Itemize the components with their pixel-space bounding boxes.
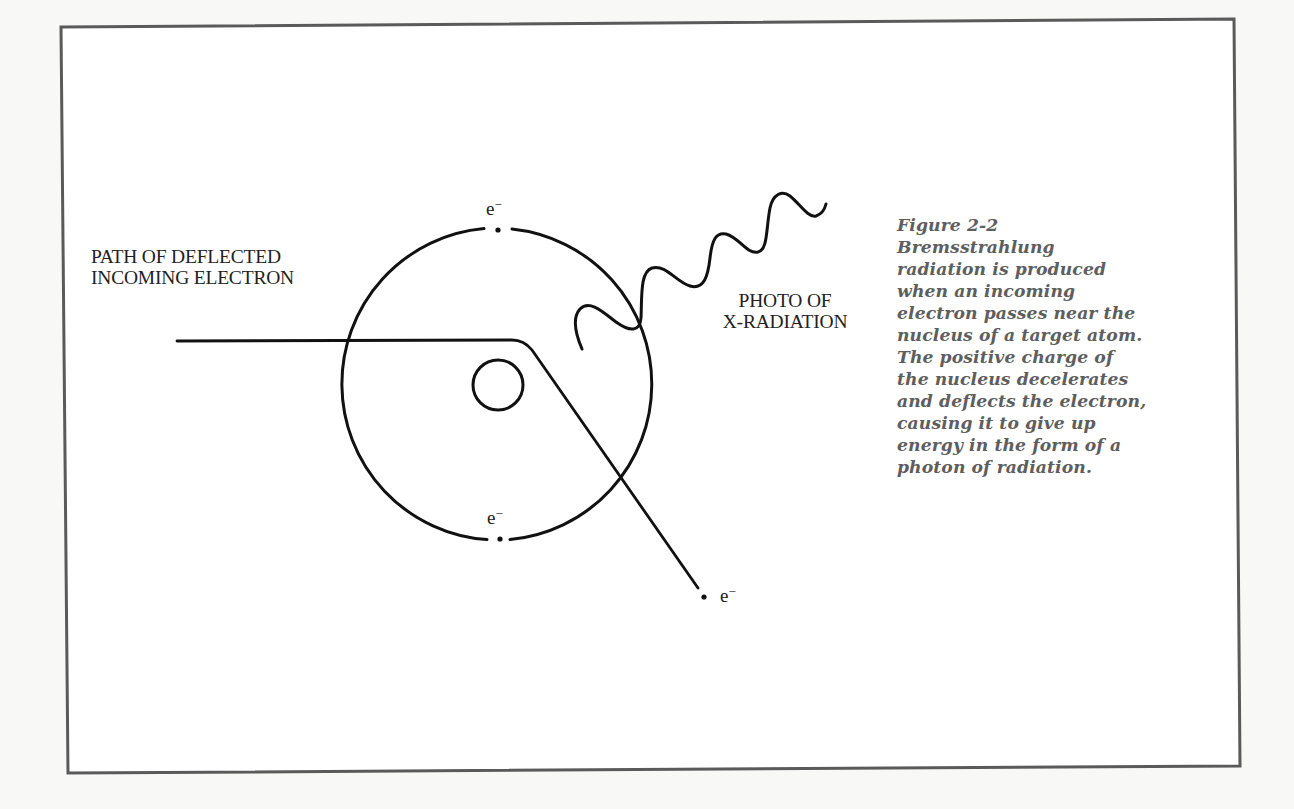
caption-line: and deflects the electron,	[897, 390, 1146, 412]
figure-caption: Figure 2-2 Bremsstrahlung radiation is p…	[897, 214, 1146, 478]
caption-line: energy in the form of a	[897, 434, 1146, 456]
caption-line: radiation is produced	[897, 258, 1146, 280]
orbit-electron-top-dot	[495, 227, 500, 232]
caption-line: photon of radiation.	[897, 456, 1146, 478]
incoming-electron-label: PATH OF DEFLECTED INCOMING ELECTRON	[91, 246, 294, 288]
photon-label-line-1: PHOTO OF	[700, 290, 870, 311]
caption-line: causing it to give up	[897, 412, 1146, 434]
incoming-electron-label-line-1: PATH OF DEFLECTED	[91, 246, 294, 267]
caption-title: Figure 2-2	[897, 214, 1146, 236]
caption-line: Bremsstrahlung	[897, 236, 1146, 258]
electron-outgoing-charge: −	[728, 584, 735, 599]
electron-top-label: e−	[486, 199, 502, 219]
electron-top-charge: −	[494, 197, 501, 212]
photon-label: PHOTO OF X-RADIATION	[700, 290, 870, 332]
caption-line: The positive charge of	[897, 346, 1146, 368]
photon-label-line-2: X-RADIATION	[700, 311, 870, 332]
electron-outgoing-label: e−	[720, 586, 736, 606]
outgoing-electron-dot	[701, 594, 706, 599]
caption-line: nucleus of a target atom.	[897, 324, 1146, 346]
electron-bottom-charge: −	[495, 506, 502, 521]
electron-bottom-label: e−	[487, 508, 503, 528]
caption-line: when an incoming	[897, 280, 1146, 302]
caption-line: the nucleus decelerates	[897, 368, 1146, 390]
orbit-electron-bottom-dot	[497, 536, 502, 541]
incoming-electron-label-line-2: INCOMING ELECTRON	[91, 267, 294, 288]
caption-line: electron passes near the	[897, 302, 1146, 324]
